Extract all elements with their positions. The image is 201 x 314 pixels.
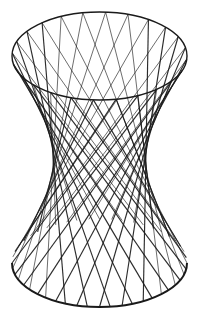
hyperboloid-wireframe: [0, 0, 201, 314]
ruling-line: [106, 12, 176, 285]
ruling-line: [27, 31, 175, 241]
ruling-line: [12, 96, 138, 263]
hyperboloid-figure: [0, 0, 201, 314]
ruling-line: [77, 48, 186, 306]
bottom-rim: [12, 263, 187, 307]
ruling-line: [17, 42, 110, 307]
ruling-line: [116, 99, 169, 236]
front-rulings: [12, 20, 187, 307]
ruling-line: [27, 31, 87, 306]
ruling-line: [56, 59, 187, 301]
ruling-line: [93, 100, 180, 247]
